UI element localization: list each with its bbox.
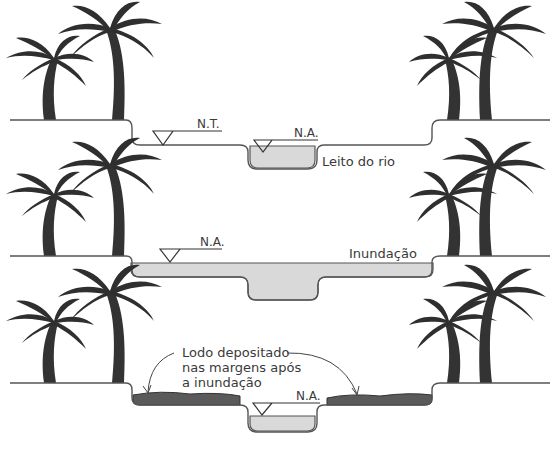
- palm-tree-icon: [58, 2, 162, 120]
- na-label: N.A.: [296, 389, 321, 403]
- palm-tree-icon: [6, 299, 94, 383]
- water-level-marker-icon: [160, 249, 222, 262]
- na-label: N.A.: [294, 126, 319, 140]
- silt-label-line1: Lodo depositado: [182, 345, 289, 360]
- silt-deposit-left: [133, 392, 240, 405]
- river-water: [250, 416, 315, 431]
- diagram-svg: N.T. N.A. Leito do rio N.A. Inundação N.…: [0, 0, 560, 451]
- na-label: N.A.: [200, 235, 225, 249]
- water-level-marker-icon: [253, 403, 320, 415]
- arrow-left-icon: [148, 353, 174, 392]
- palm-tree-icon: [6, 172, 94, 256]
- river-bed-label: Leito do rio: [322, 154, 395, 169]
- flood-water: [131, 263, 433, 300]
- flood-label: Inundação: [349, 246, 417, 261]
- diagram-canvas: N.T. N.A. Leito do rio N.A. Inundação N.…: [0, 0, 560, 451]
- silt-deposit-right: [327, 394, 432, 405]
- water-level-marker-icon: [153, 131, 222, 145]
- nt-label: N.T.: [197, 117, 220, 131]
- palm-tree-icon: [58, 138, 162, 256]
- river-water: [250, 146, 315, 168]
- silt-label-line2: nas margens após: [182, 360, 301, 375]
- silt-label-line3: a inundação: [182, 375, 262, 390]
- palm-tree-icon: [6, 36, 94, 120]
- palm-tree-icon: [58, 265, 162, 383]
- arrowhead-icon: [143, 385, 151, 393]
